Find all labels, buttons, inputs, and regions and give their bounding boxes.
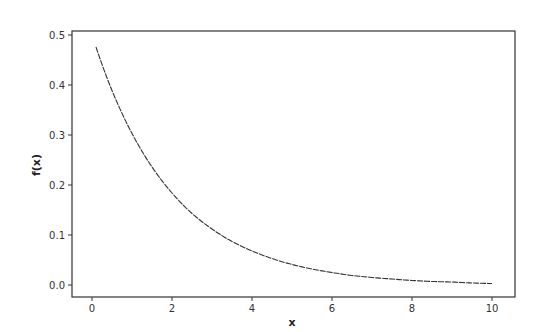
y-tick-label: 0.3	[49, 130, 65, 141]
x-axis-label: x	[288, 316, 295, 329]
y-tick-label: 0.2	[49, 180, 65, 191]
density-curve	[96, 47, 492, 284]
x-axis-ticks: 0246810	[89, 297, 499, 314]
y-axis-ticks: 0.00.10.20.30.40.5	[49, 30, 72, 291]
y-tick-label: 0.5	[49, 30, 65, 41]
x-tick-label: 6	[329, 303, 335, 314]
y-tick-label: 0.1	[49, 230, 65, 241]
y-tick-label: 0.0	[49, 280, 65, 291]
x-tick-label: 0	[89, 303, 95, 314]
y-tick-label: 0.4	[49, 80, 65, 91]
plot-frame	[72, 31, 515, 297]
chart: 0.00.10.20.30.40.5 0246810 x f(x)	[0, 0, 540, 332]
y-axis-label: f(x)	[30, 154, 43, 176]
x-tick-label: 8	[409, 303, 415, 314]
x-tick-label: 2	[169, 303, 175, 314]
x-tick-label: 4	[249, 303, 255, 314]
x-tick-label: 10	[486, 303, 499, 314]
